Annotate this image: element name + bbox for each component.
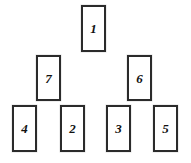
card-2[interactable]: 2 xyxy=(60,105,85,152)
card-7[interactable]: 7 xyxy=(36,55,61,101)
card-5[interactable]: 5 xyxy=(153,105,178,152)
card-label: 2 xyxy=(69,122,76,135)
card-label: 4 xyxy=(21,122,28,135)
card-label: 1 xyxy=(90,22,97,35)
card-label: 7 xyxy=(45,72,52,85)
card-1[interactable]: 1 xyxy=(81,5,106,52)
card-4[interactable]: 4 xyxy=(12,105,37,152)
card-label: 6 xyxy=(136,72,143,85)
card-3[interactable]: 3 xyxy=(106,105,131,152)
card-label: 5 xyxy=(162,122,169,135)
card-label: 3 xyxy=(115,122,122,135)
card-6[interactable]: 6 xyxy=(127,55,152,101)
card-layout-diagram: 1764235 xyxy=(0,0,191,163)
